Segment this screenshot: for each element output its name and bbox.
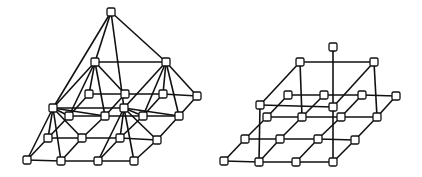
node <box>175 112 183 120</box>
node <box>107 8 115 16</box>
node <box>373 113 381 121</box>
node <box>314 135 322 143</box>
edge <box>260 105 333 107</box>
node <box>329 43 337 51</box>
right-cube-lattice <box>220 43 400 166</box>
edge <box>163 94 197 96</box>
node <box>255 158 263 166</box>
node <box>153 136 161 144</box>
node <box>94 157 102 165</box>
node <box>91 58 99 66</box>
node <box>263 113 271 121</box>
node <box>241 135 249 143</box>
edge <box>362 95 396 96</box>
edge <box>111 12 166 62</box>
edge <box>124 62 166 108</box>
node <box>162 58 170 66</box>
node <box>337 113 345 121</box>
edge <box>300 62 302 117</box>
node <box>121 90 129 98</box>
edge <box>224 161 259 162</box>
node <box>296 58 304 66</box>
edge <box>95 12 111 62</box>
node <box>85 90 93 98</box>
edge <box>374 62 377 117</box>
node <box>101 112 109 120</box>
lattice-diagrams-svg <box>0 0 422 177</box>
node <box>49 104 57 112</box>
edge <box>53 62 95 108</box>
node <box>298 113 306 121</box>
node <box>329 103 337 111</box>
edge <box>260 62 300 105</box>
node <box>44 134 52 142</box>
edge <box>259 105 260 162</box>
edge <box>27 160 61 161</box>
node <box>370 58 378 66</box>
edge <box>333 62 374 107</box>
node <box>120 104 128 112</box>
node <box>351 136 359 144</box>
left-pyramid-lattice <box>23 8 201 165</box>
node <box>57 157 65 165</box>
node <box>256 101 264 109</box>
node <box>392 92 400 100</box>
diagram-canvas <box>0 0 422 177</box>
node <box>130 157 138 165</box>
node <box>65 112 73 120</box>
node <box>329 158 337 166</box>
node <box>292 158 300 166</box>
edge <box>318 139 355 140</box>
edge <box>143 62 166 116</box>
node <box>159 90 167 98</box>
node <box>320 91 328 99</box>
node <box>193 92 201 100</box>
edge <box>120 138 157 140</box>
node <box>23 156 31 164</box>
node <box>220 157 228 165</box>
node <box>358 91 366 99</box>
node <box>284 91 292 99</box>
node <box>116 134 124 142</box>
node <box>139 112 147 120</box>
node <box>276 135 284 143</box>
node <box>78 134 86 142</box>
